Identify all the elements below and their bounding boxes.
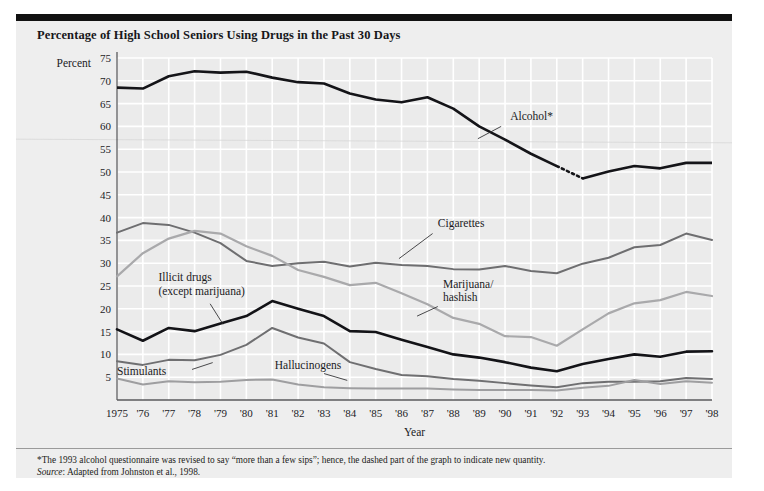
y-tick-label: 10	[100, 348, 112, 360]
x-tick-label: '78	[188, 407, 201, 419]
footnote-asterisk: *The 1993 alcohol questionnaire was revi…	[37, 454, 713, 466]
y-tick-label: 75	[100, 52, 112, 64]
chart-plot-area: 51015202530354045505560657075Percent1975…	[16, 44, 732, 448]
y-tick-label: 50	[100, 166, 112, 178]
y-tick-label: 60	[100, 120, 112, 132]
x-tick-label: '93	[576, 407, 589, 419]
x-tick-label: '90	[499, 407, 512, 419]
figure-panel: Percentage of High School Seniors Using …	[16, 14, 732, 478]
y-tick-label: 5	[106, 371, 112, 383]
y-tick-label: 45	[100, 189, 112, 201]
y-tick-label: 25	[100, 280, 112, 292]
y-tick-label: 70	[100, 75, 112, 87]
series-label-line: Marijuana/	[443, 278, 494, 291]
x-tick-label: '91	[524, 407, 537, 419]
series-label-line: (except marijuana)	[158, 285, 245, 298]
plot-background	[117, 58, 712, 400]
y-tick-label: 40	[100, 212, 112, 224]
x-tick-label: '81	[266, 407, 279, 419]
footnote-block: *The 1993 alcohol questionnaire was revi…	[37, 454, 713, 478]
figure-bottom-rule	[16, 448, 732, 449]
y-tick-label: 20	[100, 303, 112, 315]
page-title: Percentage of High School Seniors Using …	[37, 28, 401, 43]
series-label: Hallucinogens	[275, 359, 342, 372]
y-tick-label: 15	[100, 326, 112, 338]
series-label-line: Stimulants	[117, 365, 167, 377]
y-tick-label: 55	[100, 143, 112, 155]
x-tick-label: '76	[136, 407, 149, 419]
x-tick-label: '80	[240, 407, 253, 419]
series-label: Alcohol*	[510, 110, 553, 122]
series-label-line: Illicit drugs	[158, 271, 212, 284]
series-label: Cigarettes	[438, 217, 485, 230]
x-tick-label: '92	[550, 407, 563, 419]
x-tick-label: '88	[447, 407, 460, 419]
x-tick-label: '96	[654, 407, 667, 419]
series-label: Stimulants	[117, 365, 167, 377]
x-tick-label: '83	[317, 407, 330, 419]
y-tick-label: 65	[100, 98, 112, 110]
line-chart: 51015202530354045505560657075Percent1975…	[16, 44, 732, 448]
series-label-line: Hallucinogens	[275, 359, 342, 372]
x-tick-label: '95	[628, 407, 641, 419]
x-tick-label: '98	[706, 407, 719, 419]
series-label-line: hashish	[443, 291, 478, 303]
x-tick-label: '85	[369, 407, 382, 419]
x-tick-label: '77	[162, 407, 175, 419]
y-tick-label: 30	[100, 257, 112, 269]
series-label-line: Cigarettes	[438, 217, 485, 230]
x-tick-label: '94	[602, 407, 615, 419]
x-tick-label: '97	[680, 407, 693, 419]
source-line: Source: Adapted from Johnston et al., 19…	[37, 466, 713, 478]
x-tick-label: '89	[473, 407, 486, 419]
series-label-line: Alcohol*	[510, 110, 553, 122]
y-axis-title: Percent	[57, 57, 92, 69]
x-tick-label: '84	[343, 407, 356, 419]
x-tick-label: '86	[395, 407, 408, 419]
source-citation: : Adapted from Johnston et al., 1998.	[62, 467, 200, 477]
x-tick-label: '87	[421, 407, 434, 419]
x-tick-label: 1975	[106, 407, 129, 419]
x-axis-title: Year	[404, 426, 425, 438]
figure-top-rule	[16, 14, 732, 21]
source-label: Source	[37, 467, 62, 477]
x-tick-label: '82	[292, 407, 305, 419]
x-tick-label: '79	[214, 407, 227, 419]
y-tick-label: 35	[100, 234, 112, 246]
